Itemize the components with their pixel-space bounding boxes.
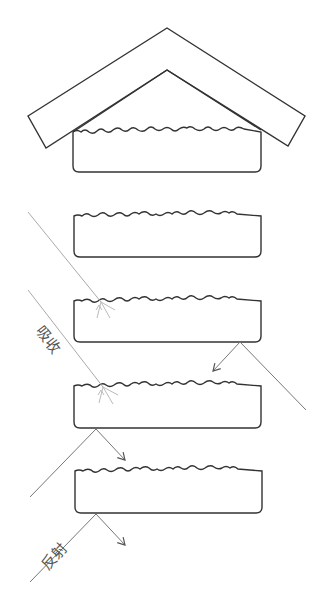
- diagram-canvas: [0, 0, 328, 600]
- slab-5: [75, 466, 262, 513]
- slab-2: [74, 211, 261, 257]
- slab-1: [73, 127, 261, 172]
- reflection-rays: [30, 342, 306, 582]
- slab-4: [74, 381, 261, 428]
